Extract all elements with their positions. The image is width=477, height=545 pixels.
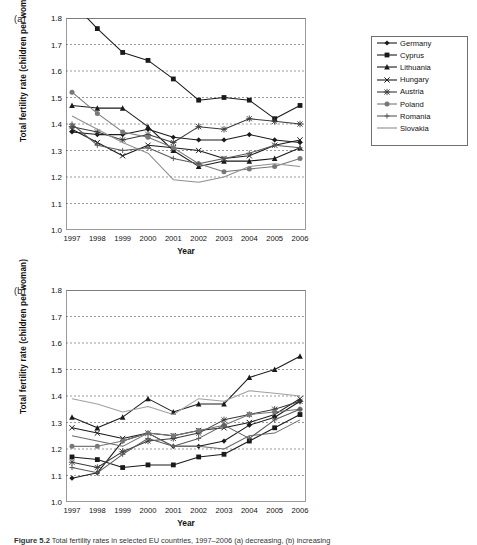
legend-marker-icon (376, 98, 398, 110)
y-tick-label: 1.8 (22, 14, 62, 23)
x-tick-label: 2006 (285, 506, 315, 515)
y-tick-label: 1.5 (22, 93, 62, 102)
legend-item-romania[interactable]: Romania (372, 110, 467, 122)
y-tick-label: 1.7 (22, 40, 62, 49)
panel-b-x-axis-label: Year (66, 518, 306, 528)
y-tick-label: 1.1 (22, 471, 62, 480)
y-tick-label: 1.1 (22, 199, 62, 208)
legend-label: Slovakia (398, 124, 429, 133)
y-tick-label: 1.5 (22, 365, 62, 374)
y-tick-label: 1.8 (22, 286, 62, 295)
legend-marker-icon (376, 74, 398, 86)
legend-item-germany[interactable]: Germany (372, 37, 467, 49)
panel-b-plot-area: 1.01.11.21.31.41.51.61.71.8 199719981999… (66, 290, 306, 502)
y-tick-label: 1.7 (22, 312, 62, 321)
y-tick-label: 1.6 (22, 339, 62, 348)
legend-item-hungary[interactable]: Hungary (372, 74, 467, 86)
legend-label: Romania (398, 112, 430, 121)
legend-label: Cyprus (398, 51, 424, 60)
chart-panel-b: (b) Total fertility rate (children per w… (0, 272, 477, 542)
legend-marker-icon (376, 110, 398, 122)
y-tick-label: 1.0 (22, 498, 62, 507)
legend-marker-icon (376, 122, 398, 134)
legend-label: Lithuania (398, 63, 431, 72)
legend-marker-icon (376, 86, 398, 98)
legend-item-poland[interactable]: Poland (372, 98, 467, 110)
y-tick-label: 1.3 (22, 418, 62, 427)
legend-item-austria[interactable]: Austria (372, 86, 467, 98)
legend-item-cyprus[interactable]: Cyprus (372, 49, 467, 61)
panel-a-series-canvas (66, 18, 306, 230)
legend-item-lithuania[interactable]: Lithuania (372, 61, 467, 73)
y-tick-label: 1.4 (22, 120, 62, 129)
figure-caption-number: Figure 5.2 (14, 536, 50, 545)
legend-item-slovakia[interactable]: Slovakia (372, 122, 467, 134)
legend-label: Germany (398, 39, 431, 48)
figure-caption: Figure 5.2 Total fertility rates in sele… (14, 536, 469, 545)
panel-a-legend: GermanyCyprusLithuaniaHungaryAustriaPola… (371, 36, 468, 146)
y-tick-label: 1.6 (22, 67, 62, 76)
y-tick-label: 1.2 (22, 445, 62, 454)
x-tick-label: 2006 (285, 234, 315, 243)
legend-marker-icon (376, 49, 398, 61)
legend-label: Austria (398, 87, 424, 96)
panel-a-x-axis-label: Year (66, 246, 306, 256)
chart-panel-a: (a) Total fertility rate (children per w… (0, 0, 477, 270)
y-tick-label: 1.2 (22, 173, 62, 182)
figure-caption-text: Total fertility rates in selected EU cou… (52, 536, 331, 545)
y-tick-label: 1.4 (22, 392, 62, 401)
y-tick-label: 1.0 (22, 226, 62, 235)
legend-marker-icon (376, 37, 398, 49)
legend-label: Poland (398, 100, 424, 109)
legend-label: Hungary (398, 75, 429, 84)
legend-marker-icon (376, 61, 398, 73)
panel-b-series-canvas (66, 290, 306, 502)
y-tick-label: 1.3 (22, 146, 62, 155)
panel-a-plot-area: 1.01.11.21.31.41.51.61.71.8 199719981999… (66, 18, 306, 230)
